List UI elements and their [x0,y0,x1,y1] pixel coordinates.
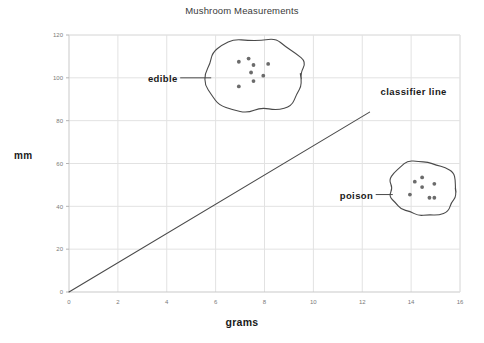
data-point-poison [420,176,424,180]
classifier-line [69,112,370,292]
x-tick-labels: 0246810121416 [67,299,464,305]
y-tick-label: 0 [60,289,64,295]
y-tick-label: 80 [56,118,63,124]
x-tick-label: 14 [408,299,415,305]
edible-label: edible [148,73,178,84]
cluster-outlines [205,39,456,215]
x-tick-label: 6 [214,299,218,305]
data-point-poison [420,185,424,189]
y-tick-label: 100 [53,75,64,81]
data-point-poison [432,182,436,186]
y-tick-label: 20 [56,246,63,252]
chart-container: Mushroom Measurements mm grams 020406080… [0,0,484,343]
data-point-edible [252,79,256,83]
data-point-edible [237,60,241,64]
x-tick-label: 12 [359,299,366,305]
y-tick-label: 40 [56,204,63,210]
data-point-poison [413,180,417,184]
data-point-poison [428,196,432,200]
classifier-line-path [69,112,370,292]
x-tick-label: 8 [263,299,267,305]
data-point-edible [237,85,241,89]
edible-cluster-outline [205,39,304,112]
x-tick-label: 2 [116,299,120,305]
poison-label: poison [340,190,374,201]
data-point-poison [408,193,412,197]
classifier-line-label: classifier line [381,86,447,97]
data-point-edible [261,74,265,78]
y-tick-labels: 020406080100120 [53,32,69,295]
data-point-edible [266,62,270,66]
x-tick-label: 0 [67,299,71,305]
grid-lines [69,35,460,292]
x-tick-label: 10 [310,299,317,305]
data-point-edible [249,71,253,75]
y-tick-label: 60 [56,161,63,167]
y-tick-label: 120 [53,32,64,38]
x-tick-label: 16 [457,299,464,305]
x-tick-label: 4 [165,299,169,305]
data-point-poison [432,196,436,200]
plot-area: 020406080100120 0246810121416 classifier… [0,0,484,343]
data-point-edible [252,63,256,67]
data-point-edible [247,57,251,61]
